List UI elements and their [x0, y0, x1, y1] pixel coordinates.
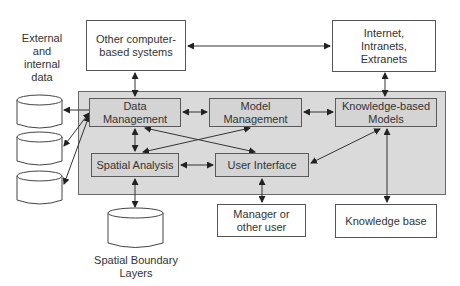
node-label: Knowledge-based [342, 100, 430, 113]
external-data-label: External and internal data [14, 32, 70, 84]
node-label: Model [241, 100, 271, 113]
external-data-line: internal [14, 58, 70, 71]
spatial-analysis-node: Spatial Analysis [91, 153, 179, 177]
node-label: User Interface [227, 159, 296, 172]
node-label: Models [368, 113, 403, 126]
node-label: Other computer- [96, 33, 176, 46]
spatial-boundary-layers-label: Spatial Boundary Layers [88, 254, 184, 280]
node-label: Intranets, [361, 40, 407, 53]
node-label: Management [223, 113, 287, 126]
data-management-node: Data Management [89, 98, 181, 127]
node-label: Management [103, 113, 167, 126]
internet-node: Internet, Intranets, Extranets [332, 20, 436, 72]
node-label: Manager or [233, 208, 289, 221]
edge-data-db2 [64, 113, 89, 146]
model-management-node: Model Management [209, 98, 302, 127]
edge-data-db3 [64, 116, 89, 184]
knowledge-base-node: Knowledge base [335, 204, 437, 238]
spatial-layers-database-icon [108, 208, 163, 248]
knowledge-based-models-node: Knowledge-based Models [335, 98, 437, 127]
database-icon [17, 95, 62, 128]
node-label: Spatial Analysis [96, 159, 173, 172]
external-data-line: data [14, 71, 70, 84]
database-icon [17, 171, 62, 204]
database-icon [17, 132, 62, 165]
manager-user-node: Manager or other user [217, 204, 306, 237]
node-label: Layers [88, 267, 184, 280]
node-label: Data [123, 100, 146, 113]
user-interface-node: User Interface [215, 153, 309, 177]
node-label: Extranets [361, 53, 407, 66]
node-label: Internet, [364, 27, 404, 40]
other-computer-systems-node: Other computer- based systems [86, 20, 186, 71]
edge-model-spatial [143, 128, 250, 152]
node-label: Spatial Boundary [88, 254, 184, 267]
node-label: other user [237, 221, 287, 234]
edge-data-ui [145, 128, 255, 152]
node-label: based systems [99, 46, 172, 59]
external-data-line: External [14, 32, 70, 45]
edge-kbmodels-ui [311, 129, 380, 163]
node-label: Knowledge base [345, 215, 426, 228]
external-data-line: and [14, 45, 70, 58]
